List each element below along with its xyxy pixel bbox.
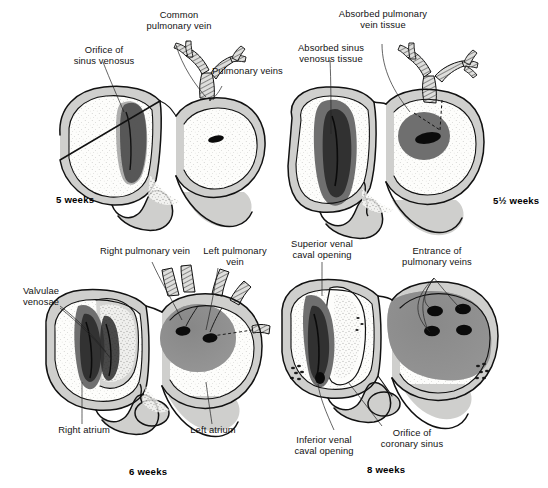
stage-label-5-weeks: 5 weeks [56, 194, 94, 205]
label-entrance-of-pulmonary-veins: Entrance of pulmonary veins [390, 245, 484, 268]
label-pulmonary-veins: Pulmonary veins [212, 65, 306, 76]
label-inferior-venal-caval-opening: Inferior venal caval opening [282, 434, 366, 457]
label-right-atrium: Right atrium [50, 424, 118, 435]
label-orifice-of-coronary-sinus: Orifice of coronary sinus [370, 427, 454, 450]
panel-8-weeks-artwork [282, 280, 498, 429]
label-right-pulmonary-vein: Right pulmonary vein [88, 245, 202, 256]
panel-6-weeks-artwork [46, 265, 270, 437]
label-common-pulmonary-vein: Common pulmonary vein [128, 9, 230, 32]
panel-5-half-weeks-artwork [288, 43, 484, 238]
stage-label-8-weeks: 8 weeks [367, 464, 405, 475]
label-absorbed-sinus-venosus-tissue: Absorbed sinus venosus tissue [281, 42, 381, 65]
label-orifice-of-sinus-venosus: Orifice of sinus venosus [52, 44, 156, 67]
label-valvulae-venosae: Valvulae venosae [8, 285, 74, 308]
stage-label-5-half-weeks: 5½ weeks [493, 195, 539, 206]
label-absorbed-pulmonary-vein-tissue: Absorbed pulmonary vein tissue [324, 8, 442, 31]
embryology-heart-development-figure: Orifice of sinus venosus Common pulmonar… [0, 0, 548, 488]
label-left-pulmonary-vein: Left pulmonary vein [196, 245, 274, 268]
stage-label-6-weeks: 6 weeks [129, 466, 167, 477]
label-superior-venal-caval-opening: Superior venal caval opening [275, 238, 369, 261]
label-left-atrium: Left atrium [182, 424, 244, 435]
